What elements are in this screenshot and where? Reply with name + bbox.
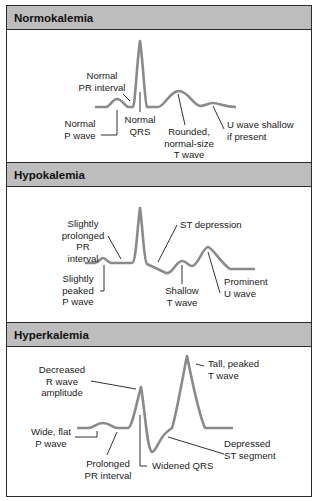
label-normal-pr-interval: Normal PR interval xyxy=(72,70,132,93)
panel-title: Hyperkalemia xyxy=(7,323,311,347)
ecg-potassium-figure: Normokalemia Hypokalemia Hyperkalemia xyxy=(6,5,312,496)
panel-title: Normokalemia xyxy=(7,6,311,30)
label-hyper-r-wave: Decreased R wave amplitude xyxy=(36,364,88,399)
label-hypo-t-wave: Shallow T wave xyxy=(162,285,202,308)
label-hyper-qrs: Widened QRS xyxy=(152,460,213,472)
label-hyper-st-segment: Depressed ST segment xyxy=(224,438,276,461)
panel-hypokalemia: Hypokalemia xyxy=(6,162,312,324)
label-hypo-pr-interval: Slightly prolonged PR interval xyxy=(60,218,106,264)
label-normal-t-wave: Rounded, normal-size T wave xyxy=(160,126,218,161)
label-normal-u-wave: U wave shallow if present xyxy=(227,119,294,142)
label-hypo-u-wave: Prominent U wave xyxy=(224,276,268,299)
label-hyper-p-wave: Wide, flat P wave xyxy=(28,426,74,449)
label-hypo-st-depression: ST depression xyxy=(180,219,242,231)
label-normal-p-wave: Normal P wave xyxy=(60,118,100,141)
label-hyper-pr-interval: Prolonged PR interval xyxy=(82,458,134,481)
label-hyper-t-wave: Tall, peaked T wave xyxy=(208,358,259,381)
label-normal-qrs: Normal QRS xyxy=(122,114,158,137)
label-hypo-p-wave: Slightly peaked P wave xyxy=(58,273,98,308)
panel-title: Hypokalemia xyxy=(7,163,311,187)
